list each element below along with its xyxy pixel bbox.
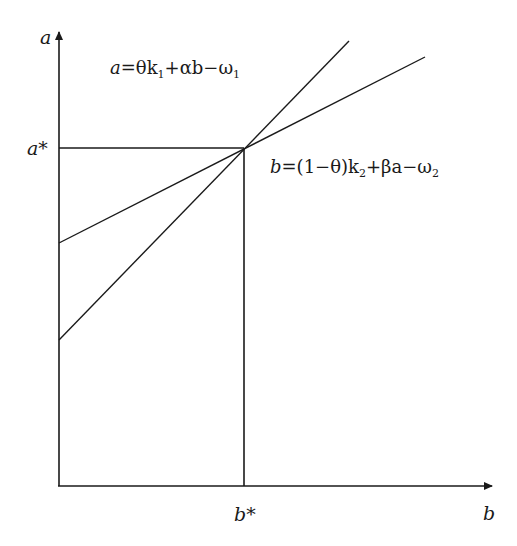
b-star-label: b* bbox=[234, 503, 256, 525]
y-axis-label: a bbox=[40, 26, 51, 48]
equation-line-a: a=θk1+αb−ω1 bbox=[110, 57, 240, 81]
equilibrium-diagram: a b a* b* a=θk1+αb−ω1 b=(1−θ)k2+βa−ω2 bbox=[0, 0, 517, 546]
a-star-label: a* bbox=[27, 137, 48, 159]
equation-line-b: b=(1−θ)k2+βa−ω2 bbox=[270, 156, 439, 180]
reaction-line-b bbox=[59, 57, 425, 243]
reaction-line-a bbox=[59, 41, 349, 340]
x-axis-label: b bbox=[483, 502, 495, 524]
